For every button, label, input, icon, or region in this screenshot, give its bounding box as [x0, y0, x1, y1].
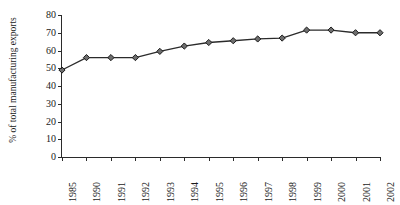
x-tick-label: 1992	[139, 162, 153, 202]
y-tick-mark	[58, 86, 62, 87]
data-point-marker	[279, 35, 285, 41]
data-point-marker	[181, 43, 187, 49]
y-tick-mark	[58, 139, 62, 140]
plot-inner	[62, 15, 380, 157]
y-tick-mark	[58, 68, 62, 69]
data-point-marker	[328, 27, 334, 33]
x-tick-label: 1991	[115, 162, 129, 202]
x-tick-label: 2000	[335, 162, 349, 202]
line-chart: % of total manufacturing exports 0102030…	[0, 0, 400, 205]
y-axis-tick-labels: 01020304050607080	[30, 9, 56, 159]
data-point-marker	[352, 30, 358, 36]
x-tick-label: 1997	[262, 162, 276, 202]
y-tick-mark	[58, 51, 62, 52]
y-tick-label: 40	[30, 80, 56, 92]
y-tick-mark	[58, 33, 62, 34]
y-tick-mark	[58, 122, 62, 123]
x-tick-label: 1998	[286, 162, 300, 202]
x-tick-label: 1990	[90, 162, 104, 202]
data-point-marker	[108, 55, 114, 61]
y-tick-mark	[58, 104, 62, 105]
x-tick-label: 1999	[311, 162, 325, 202]
data-point-marker	[132, 55, 138, 61]
series-line	[62, 30, 380, 70]
data-point-marker	[157, 48, 163, 54]
y-tick-mark	[58, 15, 62, 16]
x-tick-label: 1993	[164, 162, 178, 202]
y-tick-label: 70	[30, 27, 56, 39]
data-point-marker	[206, 39, 212, 45]
x-axis-tick-labels: 1985199019911992199319941995199619971998…	[61, 160, 379, 205]
y-tick-label: 0	[30, 151, 56, 163]
y-tick-label: 20	[30, 116, 56, 128]
x-tick-label: 2002	[384, 162, 398, 202]
data-point-marker	[83, 55, 89, 61]
y-tick-label: 10	[30, 133, 56, 145]
y-tick-label: 60	[30, 45, 56, 57]
x-tick-label: 1985	[66, 162, 80, 202]
x-tick-label: 1994	[188, 162, 202, 202]
x-tick-label: 1996	[237, 162, 251, 202]
y-tick-label: 30	[30, 98, 56, 110]
x-tick-mark	[380, 157, 381, 161]
data-point-marker	[230, 38, 236, 44]
data-point-marker	[304, 27, 310, 33]
y-axis-title: % of total manufacturing exports	[4, 0, 22, 160]
y-tick-label: 80	[30, 9, 56, 21]
data-series-1	[62, 15, 380, 157]
plot-area	[61, 15, 380, 158]
y-tick-label: 50	[30, 62, 56, 74]
x-tick-label: 2001	[360, 162, 374, 202]
data-point-marker	[255, 36, 261, 42]
x-tick-label: 1995	[213, 162, 227, 202]
data-point-marker	[377, 30, 383, 36]
